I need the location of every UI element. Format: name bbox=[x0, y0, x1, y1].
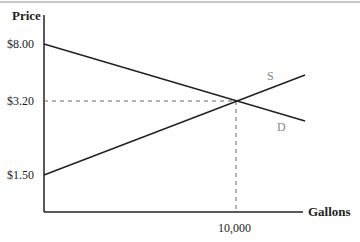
y-tick-equilibrium: $3.20 bbox=[7, 94, 34, 108]
supply-curve bbox=[44, 75, 305, 175]
supply-demand-chart: Price $8.00 $3.20 $1.50 Gallons 10,000 S… bbox=[0, 0, 360, 242]
y-tick-high: $8.00 bbox=[7, 37, 34, 51]
supply-label: S bbox=[267, 69, 274, 83]
demand-label: D bbox=[277, 120, 286, 134]
demand-curve bbox=[44, 44, 305, 121]
x-tick-equilibrium: 10,000 bbox=[218, 221, 251, 235]
y-axis-label: Price bbox=[12, 8, 41, 23]
y-tick-low: $1.50 bbox=[7, 168, 34, 182]
x-axis-label: Gallons bbox=[308, 204, 351, 219]
